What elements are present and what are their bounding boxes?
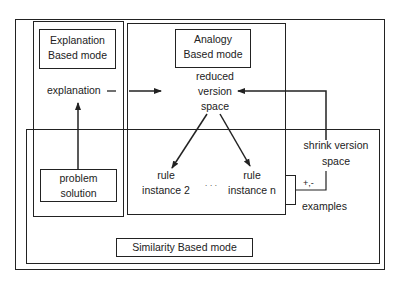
- arrow-to-rule-instance-2: [172, 114, 207, 168]
- connectors: [0, 0, 396, 281]
- arrow-shrink-to-reduced: [238, 91, 326, 140]
- arrow-to-rule-instance-n: [220, 114, 250, 166]
- examples-connector: [296, 171, 326, 190]
